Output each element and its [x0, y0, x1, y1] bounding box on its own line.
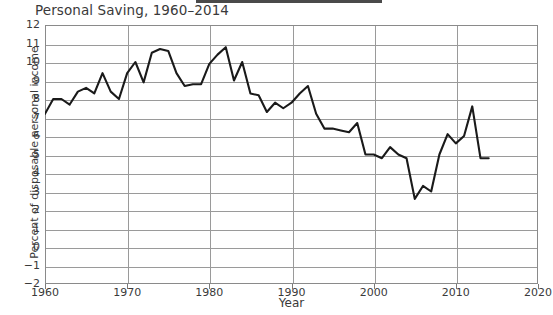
y-tick-label-5: 5 [14, 148, 40, 161]
y-tick-label-2: 2 [14, 203, 40, 216]
y-tick-label-10: 10 [14, 55, 40, 68]
y-tick-label-0: 0 [14, 240, 40, 253]
y-tick-label--1: −1 [14, 259, 40, 272]
personal-saving-line [45, 47, 489, 199]
y-tick-label-7: 7 [14, 111, 40, 124]
y-tick-label-6: 6 [14, 129, 40, 142]
x-axis-label: Year [45, 296, 538, 310]
y-tick-label-1: 1 [14, 222, 40, 235]
y-tick-label-8: 8 [14, 92, 40, 105]
y-tick-label-12: 12 [14, 18, 40, 31]
y-tick-label-9: 9 [14, 74, 40, 87]
y-tick-label-11: 11 [14, 37, 40, 50]
data-line-series [45, 25, 538, 284]
y-tick-label-3: 3 [14, 185, 40, 198]
y-tick-label-4: 4 [14, 166, 40, 179]
